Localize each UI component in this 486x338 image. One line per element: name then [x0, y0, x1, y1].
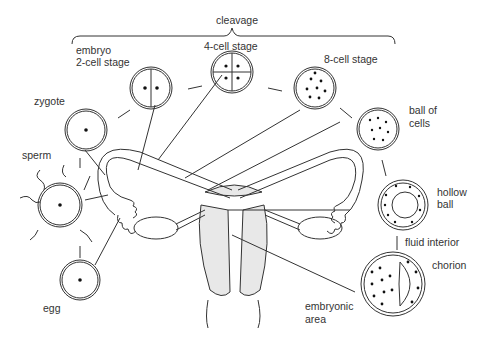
cleavage-label: cleavage	[216, 14, 258, 26]
hollow-ball-label-2: ball	[437, 198, 453, 210]
embryo-label: embryo	[76, 44, 111, 56]
egg-label: egg	[43, 302, 61, 314]
fallopian-tube-right	[238, 149, 363, 215]
eight-cell-label: 8-cell stage	[324, 53, 378, 65]
sperm-label: sperm	[22, 149, 51, 161]
uterus-wall-right	[240, 205, 267, 296]
uterus-wall-left	[199, 205, 230, 296]
ovary-left	[134, 217, 178, 239]
ball-of-cells-label-2: cells	[409, 117, 430, 129]
fallopian-tube-left	[98, 149, 232, 215]
two-cell-label: 2-cell stage	[76, 56, 130, 68]
chorion-label: chorion	[432, 259, 466, 271]
ovary-right	[298, 217, 342, 239]
ball-of-cells-label-1: ball of	[409, 104, 437, 116]
ball-of-cells	[357, 108, 399, 150]
embryonic-area-label-2: area	[305, 313, 326, 325]
four-cell-label: 4-cell stage	[204, 40, 258, 52]
hollow-ball-label-1: hollow	[437, 186, 467, 198]
embryonic-area-label-1: embryonic	[305, 300, 353, 312]
fluid-interior-label: fluid interior	[405, 236, 459, 248]
zygote-label: zygote	[34, 95, 65, 107]
